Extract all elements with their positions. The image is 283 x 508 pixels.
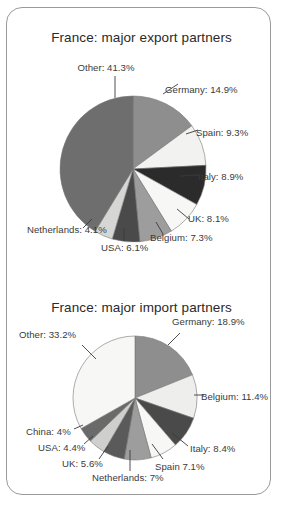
- export-label-spain: Spain: 9.3%: [196, 127, 248, 138]
- import-label-netherlands: Netherlands: 7%: [92, 472, 164, 483]
- export-label-belgium: Belgium: 7.3%: [150, 232, 213, 243]
- export-label-italy: Italy: 8.9%: [198, 171, 243, 182]
- import-label-usa: USA: 4.4%: [38, 442, 85, 453]
- chart-page: France: major export partners France: ma…: [0, 0, 283, 508]
- import-label-spain: Spain 7.1%: [155, 461, 205, 472]
- export-label-usa: USA: 6.1%: [101, 242, 148, 253]
- import-label-belgium: Belgium: 11.4%: [201, 391, 268, 402]
- import-label-other: Other: 33.2%: [19, 329, 76, 340]
- export-label-germany: Germany: 14.9%: [165, 84, 238, 95]
- import-label-uk: UK: 5.6%: [62, 458, 103, 469]
- import-leader-germany: [168, 333, 180, 345]
- import-label-germany: Germany: 18.9%: [172, 316, 245, 327]
- export-label-netherlands: Netherlands: 4.1%: [27, 224, 107, 235]
- export-label-other: Other: 41.3%: [51, 62, 161, 73]
- import-label-china: China: 4%: [26, 426, 71, 437]
- export-label-uk: UK: 8.1%: [188, 213, 229, 224]
- import-label-italy: Italy: 8.4%: [190, 443, 235, 454]
